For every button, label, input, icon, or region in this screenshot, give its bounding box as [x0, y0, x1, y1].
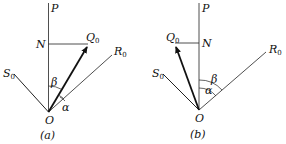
vector-oq-arrow	[176, 47, 199, 110]
label-s: S0	[152, 67, 164, 81]
line-or	[49, 55, 113, 112]
vector-diagram: P N Q0 R0 S0 β α O (a) P N Q0 R0 S0 β α …	[0, 0, 286, 144]
label-o: O	[45, 114, 54, 127]
label-s: S0	[3, 67, 15, 81]
line-or	[199, 52, 266, 110]
caption-a: (a)	[40, 129, 55, 142]
label-n: N	[201, 37, 212, 50]
label-n: N	[35, 38, 46, 51]
label-q: Q0	[86, 31, 100, 45]
label-q: Q0	[166, 31, 180, 45]
label-beta: β	[50, 76, 57, 89]
angle-arc-alpha	[58, 95, 64, 99]
label-p: P	[50, 2, 59, 15]
panel-a: P N Q0 R0 S0 β α O (a)	[3, 2, 127, 142]
label-r: R0	[268, 43, 282, 57]
label-r: R0	[113, 45, 127, 59]
label-o: O	[195, 112, 204, 125]
label-alpha: α	[205, 84, 213, 97]
caption-b: (b)	[190, 128, 206, 141]
line-os	[163, 74, 199, 110]
panel-b: P N Q0 R0 S0 β α O (b)	[152, 2, 282, 141]
line-os	[14, 74, 49, 112]
label-alpha: α	[62, 101, 70, 114]
label-p: P	[201, 2, 210, 15]
